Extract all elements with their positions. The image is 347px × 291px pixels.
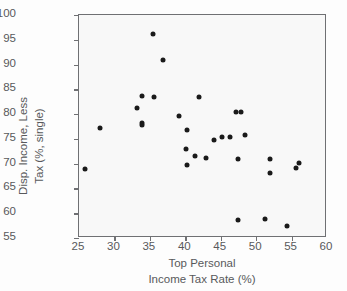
y-axis-tick-label: 70 [3,157,16,169]
y-axis-tick-label: 75 [3,132,16,144]
y-axis-tick-label: 55 [3,231,16,243]
data-point [97,126,102,131]
data-point [140,94,145,99]
data-point [150,32,155,37]
y-axis-tick-label: 90 [3,58,16,70]
x-axis-tick-label: 50 [249,241,262,253]
data-point [238,110,243,115]
data-point [296,160,301,165]
data-point [183,146,188,151]
x-axis-tick-label: 30 [107,241,120,253]
data-point [176,113,181,118]
y-axis-tick-label: 60 [3,206,16,218]
x-axis-title: Top Personal Income Tax Rate (%) [148,256,255,287]
data-point [211,137,216,142]
y-axis-tick-label: 95 [3,33,16,45]
data-point [227,135,232,140]
data-point [220,134,225,139]
data-point [262,217,267,222]
scatter-chart-figure: Disp. Income, Less Tax (%, single) Top P… [0,0,347,291]
y-axis-tick [74,164,79,165]
data-point [83,167,88,172]
x-axis-tick-label: 45 [213,241,226,253]
data-point [284,224,289,229]
data-point [293,165,298,170]
y-axis-tick [74,40,79,41]
x-axis-title-line-2: Income Tax Rate (%) [148,272,255,288]
data-point [193,154,198,159]
data-point [152,95,157,100]
y-axis-title-line-2: Tax (%, single) [32,66,48,226]
y-axis-tick [74,15,79,16]
y-axis-tick [74,89,79,90]
y-axis-tick-label: 85 [3,83,16,95]
y-axis-tick [74,139,79,140]
x-axis-tick-label: 25 [72,241,85,253]
data-point [185,163,190,168]
x-axis-tick-label: 35 [142,241,155,253]
data-point [203,155,208,160]
data-point [235,157,240,162]
x-axis-tick-label: 55 [284,241,297,253]
data-point [160,58,165,63]
data-point [140,123,145,128]
data-point [184,128,189,133]
y-axis-title: Disp. Income, Less Tax (%, single) [16,66,47,226]
data-point [267,156,272,161]
data-point [135,106,140,111]
y-axis-tick-label: 100 [0,8,16,20]
plot-area [78,14,326,237]
y-axis-tick-label: 65 [3,182,16,194]
y-axis-tick [74,114,79,115]
data-point [267,170,272,175]
data-point [235,218,240,223]
y-axis-title-line-1: Disp. Income, Less [16,66,32,226]
y-axis-tick [74,65,79,66]
data-point [196,95,201,100]
data-point [242,133,247,138]
x-axis-tick-label: 60 [320,241,333,253]
x-axis-tick-label: 40 [178,241,191,253]
y-axis-tick [74,213,79,214]
y-axis-tick [74,188,79,189]
y-axis-tick-label: 80 [3,107,16,119]
x-axis-title-line-1: Top Personal [148,256,255,272]
